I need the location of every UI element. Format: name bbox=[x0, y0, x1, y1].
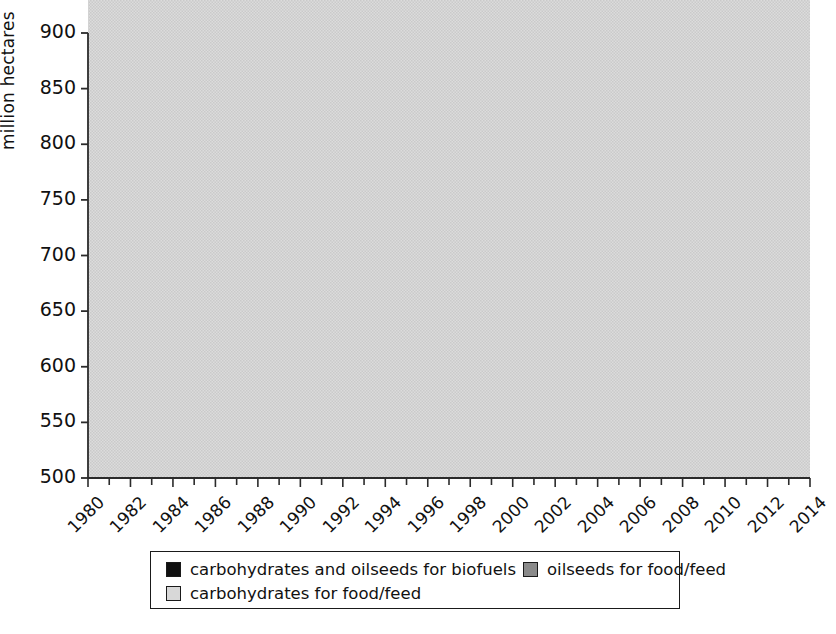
legend-item-oilseeds: oilseeds for food/feed bbox=[523, 560, 726, 579]
y-tick-label: 650 bbox=[20, 298, 76, 320]
y-tick-label: 900 bbox=[20, 20, 76, 42]
y-tick-label: 550 bbox=[20, 409, 76, 431]
chart-legend: carbohydrates and oilseeds for biofuels … bbox=[150, 551, 680, 609]
legend-swatch-oilseeds-icon bbox=[523, 562, 538, 577]
y-tick-label: 800 bbox=[20, 131, 76, 153]
y-tick-label: 600 bbox=[20, 354, 76, 376]
area-chart: million hectares 50055060065070075080085… bbox=[0, 0, 836, 634]
legend-swatch-biofuels-icon bbox=[166, 562, 181, 577]
legend-item-carbohydrates: carbohydrates for food/feed bbox=[166, 584, 421, 603]
y-tick-label: 500 bbox=[20, 465, 76, 487]
y-tick-label: 850 bbox=[20, 76, 76, 98]
legend-item-biofuels: carbohydrates and oilseeds for biofuels bbox=[166, 560, 516, 579]
legend-label-carbohydrates: carbohydrates for food/feed bbox=[190, 584, 421, 603]
y-tick-label: 750 bbox=[20, 187, 76, 209]
area-series-0 bbox=[88, 0, 810, 478]
y-tick-label: 700 bbox=[20, 243, 76, 265]
legend-swatch-carbohydrates-icon bbox=[166, 586, 181, 601]
legend-label-biofuels: carbohydrates and oilseeds for biofuels bbox=[190, 560, 516, 579]
stacked-areas bbox=[88, 0, 810, 478]
legend-label-oilseeds: oilseeds for food/feed bbox=[547, 560, 726, 579]
